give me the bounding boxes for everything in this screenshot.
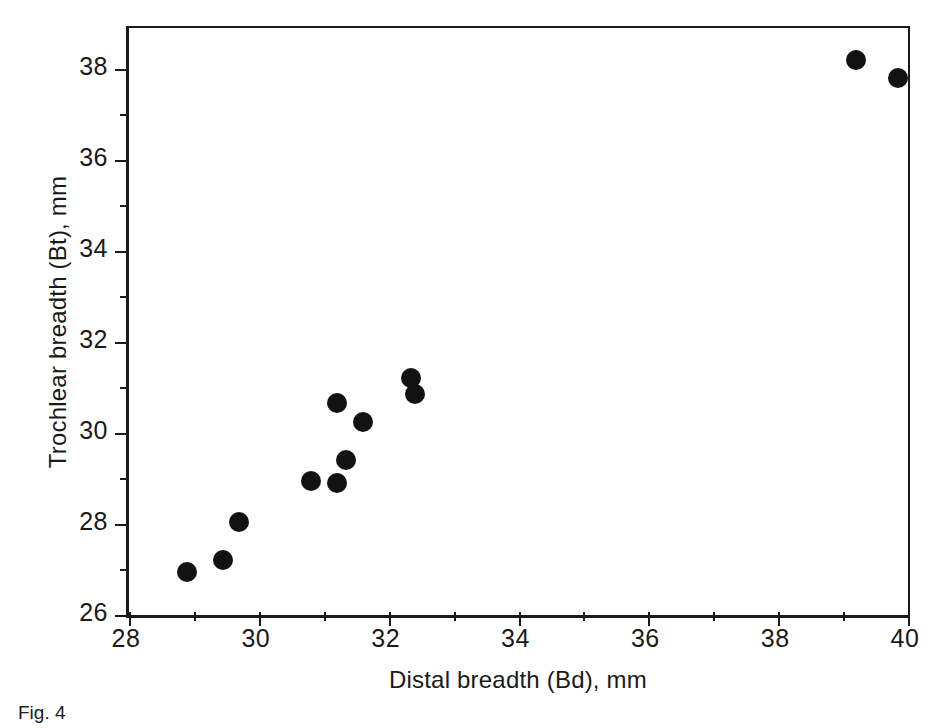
- data-point: [888, 68, 908, 88]
- x-axis-tick-labels: 28303234363840: [126, 626, 910, 660]
- y-axis-tick-label: 32: [79, 327, 108, 352]
- data-point: [846, 50, 866, 70]
- y-axis-minor-tick: [120, 205, 129, 207]
- y-axis-minor-tick: [120, 296, 129, 298]
- y-axis-major-tick: [115, 69, 129, 71]
- y-axis-major-tick: [115, 615, 129, 617]
- y-axis-tick-label: 30: [79, 418, 108, 443]
- data-point: [229, 512, 249, 532]
- x-axis-tick-label: 30: [241, 626, 270, 651]
- x-axis-tick-label: 38: [761, 626, 790, 651]
- x-axis-minor-tick: [843, 612, 845, 621]
- x-axis-minor-tick: [583, 612, 585, 621]
- figure-caption: Fig. 4: [18, 702, 318, 728]
- y-axis-tick-label: 28: [79, 509, 108, 534]
- figure-scatter-plot: Trochlear breadth (Bt), mm 2628303234363…: [0, 0, 943, 728]
- x-axis-tick-label: 40: [891, 626, 920, 651]
- y-axis-minor-tick: [120, 569, 129, 571]
- y-axis-major-tick: [115, 433, 129, 435]
- y-axis-tick-labels: 26283032343638: [40, 26, 108, 618]
- x-axis-tick-label: 28: [112, 626, 141, 651]
- data-point: [405, 384, 425, 404]
- y-axis-major-tick: [115, 524, 129, 526]
- x-axis-tick-label: 32: [371, 626, 400, 651]
- data-point: [301, 471, 321, 491]
- y-axis-tick-label: 26: [79, 600, 108, 625]
- x-axis-title: Distal breadth (Bd), mm: [126, 666, 910, 694]
- plot-frame: [126, 26, 910, 618]
- x-axis-minor-tick: [713, 612, 715, 621]
- x-axis-tick-label: 36: [631, 626, 660, 651]
- data-points-layer: [129, 28, 908, 615]
- data-point: [353, 412, 373, 432]
- y-axis-tick-label: 34: [79, 236, 108, 261]
- data-point: [336, 450, 356, 470]
- y-axis-tick-label: 36: [79, 145, 108, 170]
- y-axis-major-tick: [115, 251, 129, 253]
- y-axis-minor-tick: [120, 114, 129, 116]
- data-point: [327, 473, 347, 493]
- x-axis-minor-tick: [194, 612, 196, 621]
- y-axis-major-tick: [115, 160, 129, 162]
- x-axis-minor-tick: [324, 612, 326, 621]
- y-axis-major-tick: [115, 342, 129, 344]
- y-axis-tick-label: 38: [79, 54, 108, 79]
- x-axis-tick-label: 34: [501, 626, 530, 651]
- y-axis-minor-tick: [120, 478, 129, 480]
- y-axis-minor-tick: [120, 387, 129, 389]
- data-point: [213, 550, 233, 570]
- data-point: [327, 393, 347, 413]
- data-point: [177, 562, 197, 582]
- x-axis-minor-tick: [454, 612, 456, 621]
